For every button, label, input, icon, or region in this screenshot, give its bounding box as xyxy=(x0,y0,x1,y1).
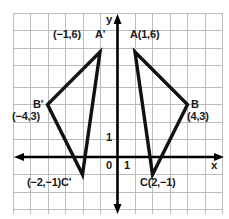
label-a-prime-name: A' xyxy=(95,28,105,40)
x-axis-label: x xyxy=(211,159,217,171)
y-axis-label: y xyxy=(106,13,112,25)
label-a: A(1,6) xyxy=(130,28,159,40)
label-b-name: B xyxy=(191,98,199,110)
origin-label: 0 xyxy=(106,159,112,171)
y-tick-1-label: 1 xyxy=(106,131,112,143)
label-b-prime-coords: (−4,3) xyxy=(12,110,40,122)
y-axis xyxy=(114,14,122,214)
label-b-coords: (4,3) xyxy=(187,110,209,122)
label-a-prime-coords: (−1,6) xyxy=(53,28,81,40)
label-b-prime-name: B' xyxy=(33,98,43,110)
coordinate-plane-figure: (−1,6) A' A(1,6) B' (−4,3) B (4,3) (−2,−… xyxy=(0,0,229,219)
label-c: C(2,−1) xyxy=(140,176,176,188)
x-axis xyxy=(14,153,224,161)
x-tick-1-label: 1 xyxy=(124,159,130,171)
label-c-prime: (−2,−1)C' xyxy=(27,176,71,188)
